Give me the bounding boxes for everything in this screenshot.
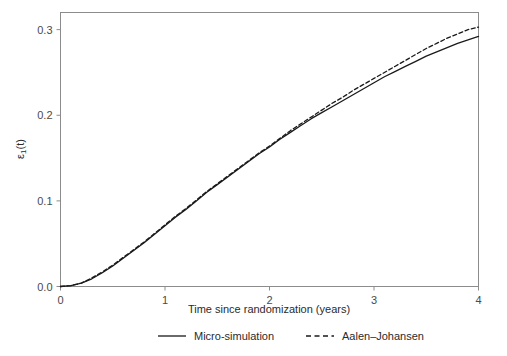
x-tick-label: 1 — [162, 294, 168, 306]
legend-label-aalen-johansen: Aalen–Johansen — [342, 330, 424, 342]
chart-figure: 01234 0.00.10.20.3 Time since randomizat… — [0, 0, 507, 356]
x-tick-label: 3 — [371, 294, 377, 306]
y-tick-label: 0.1 — [37, 195, 52, 207]
legend-label-micro-simulation: Micro-simulation — [194, 330, 274, 342]
x-tick-label: 4 — [475, 294, 481, 306]
y-tick-label: 0.0 — [37, 281, 52, 293]
x-tick-label: 0 — [57, 294, 63, 306]
x-axis-title: Time since randomization (years) — [188, 303, 350, 315]
cumulative-incidence-chart: 01234 0.00.10.20.3 Time since randomizat… — [0, 0, 507, 356]
y-tick-label: 0.3 — [37, 24, 52, 36]
y-tick-label: 0.2 — [37, 109, 52, 121]
y-axis-title-suffix: (t) — [14, 139, 26, 149]
